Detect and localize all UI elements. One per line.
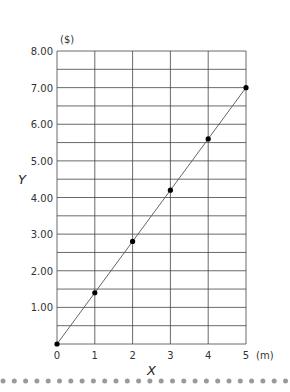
data-point	[168, 188, 173, 193]
y-tick-label: 1.00	[31, 302, 53, 313]
divider-dot	[34, 379, 39, 384]
x-tick-label: 2	[129, 350, 135, 361]
data-point	[130, 239, 135, 244]
divider-dot	[283, 379, 288, 384]
y-tick-label: 3.00	[31, 229, 53, 240]
data-point	[92, 290, 97, 295]
divider-dot	[249, 379, 254, 384]
data-point	[206, 136, 211, 141]
data-point	[243, 85, 248, 90]
y-unit-label: ($)	[60, 34, 74, 45]
divider-dot	[125, 379, 130, 384]
y-tick-label: 5.00	[31, 156, 53, 167]
divider-dot	[181, 379, 186, 384]
data-point	[54, 341, 59, 346]
divider-dot	[114, 379, 119, 384]
divider-dot	[23, 379, 28, 384]
divider-dot	[215, 379, 220, 384]
x-tick-label: 0	[54, 350, 60, 361]
y-axis-label: Y	[18, 172, 27, 187]
divider-dot	[46, 379, 51, 384]
y-tick-label: 7.00	[31, 83, 53, 94]
line-chart: 1.002.003.004.005.006.007.008.00012345($…	[0, 0, 290, 392]
x-tick-label: 5	[243, 350, 249, 361]
divider-dot	[193, 379, 198, 384]
divider-dot	[227, 379, 232, 384]
x-tick-label: 4	[205, 350, 211, 361]
y-tick-label: 6.00	[31, 119, 53, 130]
divider-dot	[147, 379, 152, 384]
divider-dot	[272, 379, 277, 384]
divider-dot	[12, 379, 17, 384]
divider-dot	[136, 379, 141, 384]
y-tick-label: 2.00	[31, 266, 53, 277]
divider-dot	[238, 379, 243, 384]
divider-dot	[80, 379, 85, 384]
x-tick-label: 1	[92, 350, 98, 361]
divider-dot	[170, 379, 175, 384]
x-unit-label: (m)	[256, 350, 274, 361]
divider-dot	[102, 379, 107, 384]
divider-dot	[57, 379, 62, 384]
divider-dot	[68, 379, 73, 384]
divider-dot	[159, 379, 164, 384]
divider-dot	[1, 379, 6, 384]
divider-dot	[91, 379, 96, 384]
y-tick-label: 8.00	[31, 46, 53, 57]
divider-dot	[260, 379, 265, 384]
y-tick-label: 4.00	[31, 193, 53, 204]
x-tick-label: 3	[167, 350, 173, 361]
dotted-divider	[0, 376, 290, 386]
divider-dot	[204, 379, 209, 384]
